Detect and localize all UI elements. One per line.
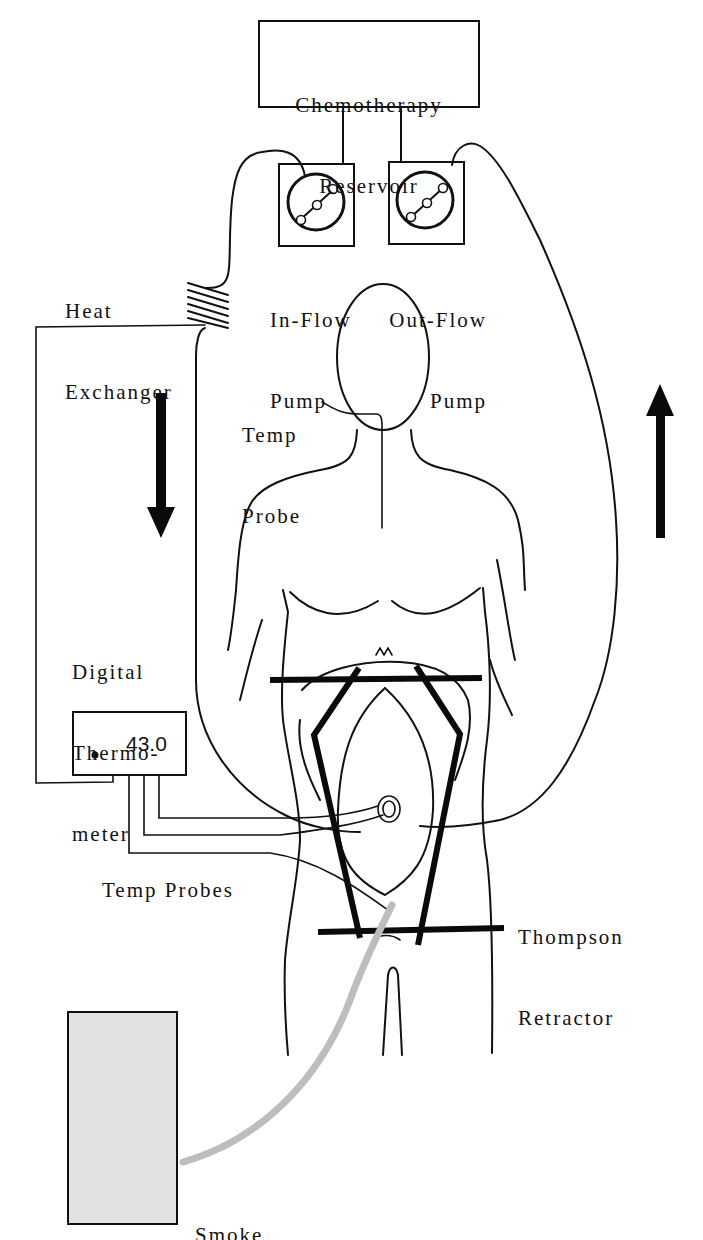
outflow-tube bbox=[420, 144, 617, 827]
patient-left-torso bbox=[282, 590, 300, 1055]
head-temp-probe-label-line1: Temp bbox=[242, 422, 301, 449]
thermometer-reading: 43.0 bbox=[126, 730, 167, 757]
heat-exchanger-label-line2: Exchanger bbox=[65, 379, 173, 406]
patient-leg-divide bbox=[383, 968, 402, 1056]
temp-probes-label: Temp Probes bbox=[102, 877, 234, 904]
head-temp-probe-label-line2: Probe bbox=[242, 503, 301, 530]
outflow-pump-label-line1: Out-Flow bbox=[387, 307, 487, 334]
temp-probe-wire-1 bbox=[159, 775, 378, 818]
patient-left-arm bbox=[240, 620, 262, 700]
temp-probe-wire-2 bbox=[144, 775, 383, 835]
patient-right-torso bbox=[482, 588, 492, 1053]
thompson-retractor-label: Thompson Retractor bbox=[518, 870, 624, 1059]
smoke-evacuator-label: Smoke Evacuator bbox=[195, 1168, 298, 1240]
heat-exchanger-coil-icon bbox=[188, 283, 228, 328]
smoke-evacuator-label-line1: Smoke bbox=[195, 1222, 298, 1240]
reservoir-label: Chemotherapy Reservoir bbox=[259, 38, 479, 227]
thompson-retractor-label-line1: Thompson bbox=[518, 924, 624, 951]
patient-right-arm bbox=[497, 560, 515, 660]
reservoir-label-line2: Reservoir bbox=[259, 173, 479, 200]
patient-right-forearm bbox=[490, 660, 512, 715]
outflow-pump-label-line2: Pump bbox=[387, 388, 487, 415]
inflow-pump-label-line1: In-Flow bbox=[270, 307, 352, 334]
patient-xiphoid bbox=[376, 648, 392, 655]
heat-exchanger-label-line1: Heat bbox=[65, 298, 173, 325]
reservoir-label-line1: Chemotherapy bbox=[259, 92, 479, 119]
digital-thermometer-label-line1: Digital bbox=[72, 659, 159, 686]
umbilical-temp-probe-icon bbox=[378, 796, 400, 822]
patient-chest-right bbox=[392, 588, 480, 614]
patient-chest-left bbox=[290, 592, 378, 614]
patient-right-shoulder bbox=[411, 430, 525, 590]
outflow-pump-label: Out-Flow Pump bbox=[387, 253, 487, 442]
smoke-evacuator-box bbox=[68, 1012, 177, 1224]
heat-exchanger-label: Heat Exchanger bbox=[65, 244, 173, 433]
thompson-retractor-label-line2: Retractor bbox=[518, 1005, 624, 1032]
head-temp-probe-label: Temp Probe bbox=[242, 368, 301, 557]
abdominal-opening bbox=[338, 688, 433, 895]
digital-thermometer-label-line3: meter bbox=[72, 821, 159, 848]
flow-arrow-up-icon bbox=[646, 384, 674, 538]
